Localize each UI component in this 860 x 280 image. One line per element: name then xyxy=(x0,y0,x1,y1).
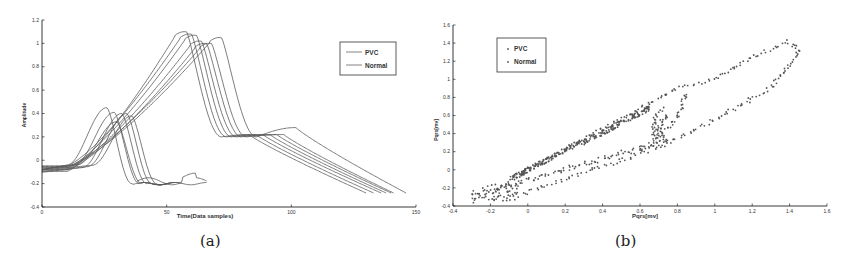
svg-text:0: 0 xyxy=(526,208,529,214)
legend-a-normal: Normal xyxy=(365,62,388,69)
svg-text:0.2: 0.2 xyxy=(32,134,39,140)
panel-a-xlabel: Time(Data samples) xyxy=(177,213,234,219)
svg-text:0: 0 xyxy=(41,209,44,215)
svg-text:0.4: 0.4 xyxy=(599,208,606,214)
legend-a-pvc: PVC xyxy=(365,49,379,56)
svg-text:-0.4: -0.4 xyxy=(30,204,39,210)
legend-b-normal: Normal xyxy=(514,58,537,65)
svg-text:1.6: 1.6 xyxy=(443,22,450,28)
svg-text:1.2: 1.2 xyxy=(749,208,756,214)
svg-text:0.8: 0.8 xyxy=(32,63,39,69)
svg-text:0.6: 0.6 xyxy=(32,87,39,93)
svg-text:1: 1 xyxy=(447,76,450,82)
svg-text:0.6: 0.6 xyxy=(443,112,450,118)
svg-text:0.8: 0.8 xyxy=(443,94,450,100)
svg-text:0.4: 0.4 xyxy=(443,130,450,136)
panel-b-ylabel: Pqrs[mv] xyxy=(433,119,439,141)
svg-text:1.4: 1.4 xyxy=(786,208,793,214)
svg-text:1.2: 1.2 xyxy=(443,58,450,64)
legend-b-pvc: PVC xyxy=(514,45,528,52)
svg-text:100: 100 xyxy=(287,209,296,215)
panel-a-legend: PVC Normal xyxy=(340,42,396,75)
svg-text:0: 0 xyxy=(36,157,39,163)
svg-text:-0.4: -0.4 xyxy=(449,208,458,214)
svg-text:50: 50 xyxy=(164,209,170,215)
svg-text:-0.2: -0.2 xyxy=(486,208,495,214)
svg-text:0.4: 0.4 xyxy=(32,110,39,116)
panel-a-line-chart: -0.4-0.200.20.40.60.811.2050100150 PVC N… xyxy=(21,17,420,219)
caption-b: (b) xyxy=(615,232,636,250)
svg-text:1.2: 1.2 xyxy=(32,17,39,23)
svg-text:0.2: 0.2 xyxy=(443,148,450,154)
svg-text:0.8: 0.8 xyxy=(674,208,681,214)
svg-text:150: 150 xyxy=(412,209,421,215)
panel-b-legend: PVC Normal xyxy=(497,38,546,72)
svg-text:1: 1 xyxy=(713,208,716,214)
svg-text:-0.2: -0.2 xyxy=(30,180,39,186)
svg-text:1: 1 xyxy=(36,40,39,46)
svg-text:0.2: 0.2 xyxy=(562,208,569,214)
svg-text:1.6: 1.6 xyxy=(824,208,831,214)
panel-b-xlabel: Pqrs[mv] xyxy=(632,213,658,219)
figure-canvas: -0.4-0.200.20.40.60.811.2050100150 PVC N… xyxy=(0,0,860,280)
caption-a: (a) xyxy=(200,232,221,250)
svg-text:1.4: 1.4 xyxy=(443,40,450,46)
panel-a-ylabel: Amplitude xyxy=(21,103,27,128)
panel-b-scatter-chart: -0.4-0.200.20.40.60.811.21.41.6-0.4-0.20… xyxy=(433,22,831,219)
svg-text:-0.2: -0.2 xyxy=(441,185,450,191)
svg-text:0: 0 xyxy=(447,167,450,173)
